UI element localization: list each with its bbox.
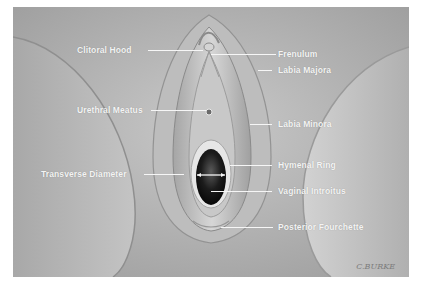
leader-line-hymenal-ring bbox=[230, 165, 272, 166]
anatomical-illustration: Clitoral Hood Frenulum Labia Majora Uret… bbox=[13, 7, 409, 277]
leader-line-vaginal-introitus bbox=[211, 191, 272, 192]
leader-line-labia-majora bbox=[258, 70, 272, 71]
leader-line-frenulum bbox=[211, 54, 276, 55]
leader-line-transverse-diameter bbox=[144, 174, 184, 175]
leader-line-posterior-fourchette bbox=[221, 227, 273, 228]
label-posterior-fourchette: Posterior Fourchette bbox=[278, 222, 364, 232]
label-labia-majora: Labia Majora bbox=[278, 65, 331, 75]
leader-line-labia-minora bbox=[250, 124, 272, 125]
label-hymenal-ring: Hymenal Ring bbox=[278, 160, 336, 170]
artist-signature: C.BURKE bbox=[356, 262, 395, 271]
label-urethral-meatus: Urethral Meatus bbox=[77, 105, 143, 115]
illustration-artwork bbox=[13, 7, 409, 277]
label-frenulum: Frenulum bbox=[278, 49, 318, 59]
label-clitoral-hood: Clitoral Hood bbox=[77, 45, 132, 55]
label-vaginal-introitus: Vaginal Introitus bbox=[278, 186, 346, 196]
leader-line-urethral-meatus bbox=[151, 110, 206, 111]
leader-line-clitoral-hood bbox=[148, 50, 203, 51]
label-transverse-diameter: Transverse Diameter bbox=[41, 169, 127, 179]
label-labia-minora: Labia Minora bbox=[278, 119, 332, 129]
